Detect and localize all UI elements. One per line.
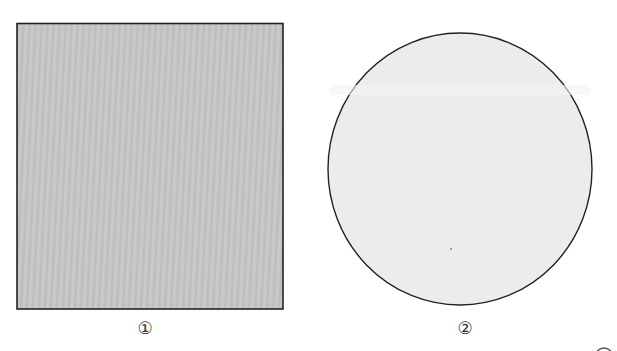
circle-fill: [328, 33, 592, 305]
circle-highlight-band: [330, 85, 590, 95]
circle-speck: [450, 248, 452, 250]
circle-label: ②: [457, 320, 472, 337]
square-fill: [17, 24, 283, 310]
shapes-canvas: [0, 0, 617, 351]
shapes-diagram: ① ②: [0, 0, 617, 351]
square-label: ①: [137, 320, 152, 337]
square-shape: [17, 24, 283, 310]
circle-shape: [328, 33, 592, 305]
